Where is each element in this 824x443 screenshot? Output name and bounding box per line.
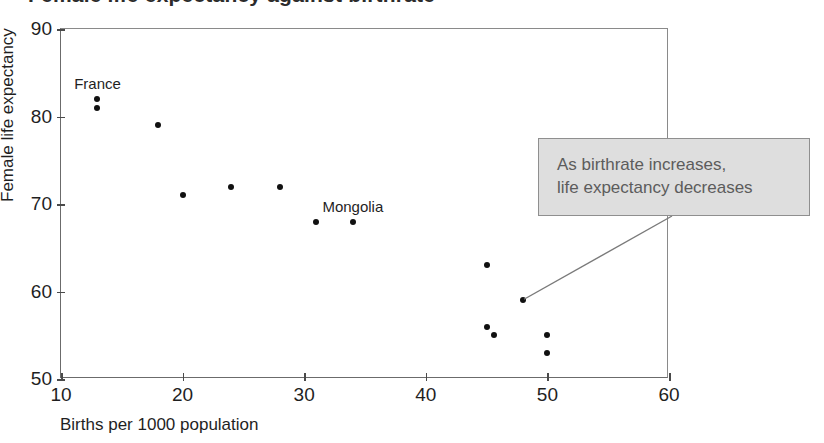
x-axis-tick-label: 20 [172, 384, 193, 406]
x-axis-title: Births per 1000 population [60, 415, 258, 435]
trend-callout-text: As birthrate increases, life expectancy … [557, 154, 753, 200]
data-point-label: Mongolia [322, 198, 383, 215]
x-axis-tick [669, 373, 671, 381]
data-point [228, 184, 234, 190]
x-axis-tick-label: 50 [537, 384, 558, 406]
y-axis-tick-label: 60 [31, 281, 52, 303]
trend-callout-box: As birthrate increases, life expectancy … [538, 138, 810, 216]
chart-title: Female life expectancy against birthrate [28, 0, 435, 7]
data-point [520, 297, 526, 303]
data-point [544, 350, 550, 356]
data-point [94, 105, 100, 111]
data-point [277, 184, 283, 190]
y-axis-tick [57, 292, 65, 294]
data-point [94, 96, 100, 102]
x-axis-tick [304, 373, 306, 381]
y-axis-tick-label: 80 [31, 106, 52, 128]
x-axis-tick [61, 373, 63, 381]
data-point [544, 332, 550, 338]
data-point-label: France [74, 75, 121, 92]
data-point [484, 324, 490, 330]
y-axis-title: Female life expectancy [0, 28, 18, 202]
y-axis-tick [57, 29, 65, 31]
y-axis-tick-label: 90 [31, 18, 52, 40]
data-point [484, 262, 490, 268]
y-axis-tick [57, 204, 65, 206]
y-axis-tick-label: 70 [31, 193, 52, 215]
x-axis-tick-label: 30 [294, 384, 315, 406]
scatter-chart: Female life expectancy against birthrate… [0, 0, 824, 443]
x-axis-tick-label: 60 [658, 384, 679, 406]
data-point [180, 192, 186, 198]
x-axis-tick [426, 373, 428, 381]
x-axis-tick-label: 40 [415, 384, 436, 406]
data-point [313, 219, 319, 225]
x-axis-tick [547, 373, 549, 381]
x-axis-tick-label: 10 [50, 384, 71, 406]
y-axis-tick [57, 117, 65, 119]
data-point [491, 332, 497, 338]
data-point [155, 122, 161, 128]
data-point [350, 219, 356, 225]
y-axis-tick-label: 50 [31, 368, 52, 390]
x-axis-tick [183, 373, 185, 381]
